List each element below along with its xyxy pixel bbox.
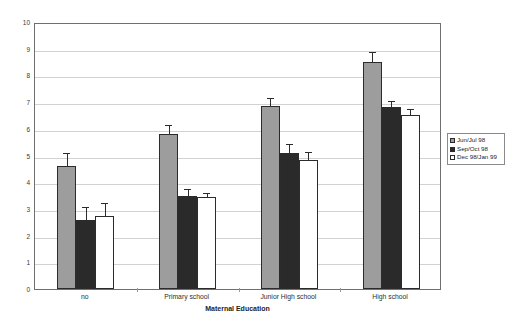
error-bar-cap: [101, 203, 108, 204]
bar: [178, 196, 197, 289]
y-axis-tick-label: 6: [8, 127, 30, 134]
legend-item: Jun/Jul 98: [450, 137, 502, 145]
y-axis-tick-label: 8: [8, 73, 30, 80]
x-axis-tick-label: no: [81, 294, 89, 301]
bar: [363, 62, 382, 289]
y-axis-tick-label: 4: [8, 180, 30, 187]
error-bar: [105, 204, 106, 216]
bar: [280, 153, 299, 289]
bar: [159, 134, 178, 289]
legend-swatch: [450, 155, 455, 160]
category-separator: [137, 288, 138, 292]
plot-area: [34, 23, 441, 290]
x-axis-tick-label: Junior High school: [260, 294, 316, 301]
legend-swatch: [450, 147, 455, 152]
bar-group: [57, 24, 114, 289]
error-bar: [207, 194, 208, 197]
x-axis-tick-label: Primary school: [164, 294, 209, 301]
error-bar: [86, 208, 87, 220]
error-bar-cap: [184, 189, 191, 190]
y-axis-tick-label: 7: [8, 100, 30, 107]
y-axis-tick-label: 5: [8, 153, 30, 160]
error-bar: [169, 126, 170, 134]
error-bar-cap: [82, 207, 89, 208]
category-separator: [239, 288, 240, 292]
y-axis-tick-label: 1: [8, 260, 30, 267]
error-bar: [308, 153, 309, 160]
bar: [76, 220, 95, 289]
bar-group: [261, 24, 318, 289]
bar: [197, 197, 216, 289]
bar-group: [363, 24, 420, 289]
x-axis-tick-label: High school: [372, 294, 408, 301]
error-bar-cap: [267, 98, 274, 99]
error-bar-cap: [407, 109, 414, 110]
y-axis-tick-label: 9: [8, 46, 30, 53]
error-bar: [67, 154, 68, 166]
error-bar-cap: [369, 52, 376, 53]
bar: [299, 160, 318, 289]
error-bar: [188, 190, 189, 195]
error-bar-cap: [203, 193, 210, 194]
bar: [382, 107, 401, 289]
error-bar: [391, 102, 392, 108]
legend-item: Dec 98/Jan 99: [450, 154, 502, 162]
bar: [401, 115, 420, 289]
legend-item: Sep/Oct 98: [450, 145, 502, 153]
legend: Jun/Jul 98Sep/Oct 98Dec 98/Jan 99: [447, 133, 505, 165]
x-axis-title: Maternal Education: [34, 305, 441, 312]
legend-swatch: [450, 138, 455, 143]
bar-group: [159, 24, 216, 289]
error-bar: [372, 53, 373, 62]
error-bar: [289, 145, 290, 152]
error-bar-cap: [165, 125, 172, 126]
error-bar-cap: [286, 144, 293, 145]
category-separator: [340, 288, 341, 292]
bar: [95, 216, 114, 289]
legend-label: Jun/Jul 98: [457, 137, 485, 143]
error-bar-cap: [305, 152, 312, 153]
bar: [57, 166, 76, 289]
y-axis-tick-label: 10: [8, 20, 30, 27]
error-bar: [270, 99, 271, 106]
error-bar-cap: [388, 101, 395, 102]
bar-chart: 012345678910 noPrimary schoolJunior High…: [0, 0, 523, 323]
y-axis-tick-label: 3: [8, 207, 30, 214]
error-bar: [410, 110, 411, 115]
error-bar-cap: [63, 153, 70, 154]
legend-label: Sep/Oct 98: [457, 146, 488, 152]
y-axis-tick-label: 2: [8, 233, 30, 240]
y-axis-tick-label: 0: [8, 287, 30, 294]
legend-label: Dec 98/Jan 99: [457, 154, 497, 160]
bar: [261, 106, 280, 289]
